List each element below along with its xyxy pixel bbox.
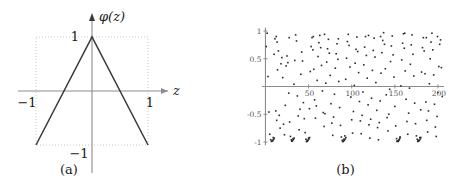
scatter-point xyxy=(380,36,382,38)
scatter-point xyxy=(428,110,430,112)
scatter-point xyxy=(296,40,298,42)
scatter-point xyxy=(285,65,287,67)
scatter-point xyxy=(324,34,326,36)
scatter-point xyxy=(415,123,417,125)
scatter-point xyxy=(426,120,428,122)
scatter-point xyxy=(284,134,286,136)
scatter-point xyxy=(344,135,346,137)
scatter-point xyxy=(333,116,335,118)
scatter-point xyxy=(308,138,310,140)
scatter-point xyxy=(344,140,346,142)
scatter-points-group xyxy=(266,32,444,142)
panel-a-hat-function: φ(z) z 1 −1 −1 1 (a) xyxy=(0,0,228,193)
scatter-point xyxy=(319,35,321,37)
scatter-point xyxy=(318,42,320,44)
scatter-point xyxy=(335,67,337,69)
scatter-point xyxy=(411,34,413,36)
scatter-point xyxy=(328,39,330,41)
scatter-point xyxy=(390,61,392,63)
scatter-point xyxy=(276,41,278,43)
x-axis-label: z xyxy=(172,83,180,98)
scatter-point xyxy=(420,109,422,111)
scatter-point xyxy=(405,98,407,100)
scatter-point xyxy=(293,137,295,139)
scatter-point xyxy=(378,139,380,141)
scatter-point xyxy=(348,45,350,47)
scatter-point xyxy=(324,113,326,115)
scatter-point xyxy=(436,116,438,118)
scatter-point xyxy=(289,121,291,123)
scatter-point xyxy=(305,138,307,140)
scatter-point xyxy=(388,113,390,115)
scatter-point xyxy=(420,137,422,139)
scatter-point xyxy=(273,54,275,56)
scatter-point xyxy=(409,87,411,89)
scatter-point xyxy=(424,73,426,75)
y-axis-label: φ(z) xyxy=(99,9,125,24)
scatter-point xyxy=(282,77,284,79)
scatter-axes-group xyxy=(262,28,444,146)
scatter-point xyxy=(400,85,402,87)
scatter-point xyxy=(351,119,353,121)
scatter-point xyxy=(369,137,371,139)
figure-container: φ(z) z 1 −1 −1 1 (a) 50100150200-1-0.50.… xyxy=(0,0,455,193)
scatter-point xyxy=(269,133,271,135)
scatter-point xyxy=(368,35,370,37)
scatter-point xyxy=(301,51,303,53)
scatter-point xyxy=(391,35,393,37)
scatter-point xyxy=(438,66,440,68)
scatter-point xyxy=(338,81,340,83)
scatter-point xyxy=(383,32,385,34)
scatter-point xyxy=(393,76,395,78)
scatter-point xyxy=(419,140,421,142)
scatter-point xyxy=(380,72,382,74)
scatter-point xyxy=(310,46,312,48)
scatter-point xyxy=(316,105,318,107)
scatter-point xyxy=(338,38,340,40)
scatter-point xyxy=(401,59,403,61)
scatter-point xyxy=(273,137,275,139)
scatter-point xyxy=(352,132,354,134)
scatter-point xyxy=(273,139,275,141)
scatter-point xyxy=(280,63,282,65)
scatter-point xyxy=(339,107,341,109)
scatter-point xyxy=(396,138,398,140)
scatter-point xyxy=(407,133,409,135)
scatter-point xyxy=(440,39,442,41)
scatter-point xyxy=(288,92,290,94)
scatter-point xyxy=(381,52,383,54)
scatter-point xyxy=(349,66,351,68)
scatter-point xyxy=(363,64,365,66)
scatter-point xyxy=(303,118,305,120)
scatter-point xyxy=(293,139,295,141)
scatter-point xyxy=(322,112,324,114)
scatter-point xyxy=(359,101,361,103)
scatter-point xyxy=(353,85,355,87)
tick-label-y-top: 1 xyxy=(71,29,79,44)
scatter-y-tick-label: 1 xyxy=(257,27,262,36)
scatter-point xyxy=(399,138,401,140)
scatter-point xyxy=(275,36,277,38)
scatter-point xyxy=(385,94,387,96)
scatter-point xyxy=(364,46,366,48)
scatter-point xyxy=(275,110,277,112)
scatter-point xyxy=(278,115,280,117)
scatter-point xyxy=(419,138,421,140)
scatter-point xyxy=(344,138,346,140)
scatter-point xyxy=(360,133,362,135)
scatter-point xyxy=(406,121,408,123)
scatter-point xyxy=(313,36,315,38)
scatter-point xyxy=(426,37,428,39)
scatter-point xyxy=(384,44,386,46)
scatter-point xyxy=(416,138,418,140)
scatter-point xyxy=(356,36,358,38)
scatter-point xyxy=(379,122,381,124)
scatter-point xyxy=(345,78,347,80)
scatter-point xyxy=(297,115,299,117)
scatter-point xyxy=(404,32,406,34)
scatter-point xyxy=(379,100,381,102)
scatter-point xyxy=(274,38,276,40)
caption-panel-b: (b) xyxy=(232,162,455,177)
scatter-point xyxy=(394,106,396,108)
scatter-point xyxy=(402,42,404,44)
